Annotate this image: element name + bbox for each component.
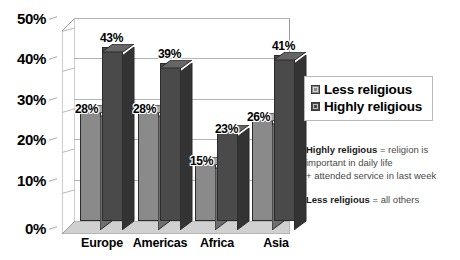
data-label-americas-highly: 39% — [158, 47, 181, 61]
data-label-europe-less: 28% — [75, 102, 98, 116]
y-tick-label-50: 50% — [17, 10, 46, 27]
bar-asia-less-religious[interactable] — [252, 116, 273, 221]
bar-face — [217, 128, 238, 221]
note-definition: = religion is — [377, 144, 428, 155]
data-label-asia-less: 26% — [247, 110, 270, 124]
bar-africa-less-religious[interactable] — [195, 160, 216, 221]
x-tick-label-africa: Africa — [200, 236, 234, 250]
y-tick-label-30: 30% — [17, 91, 46, 108]
x-tick-label-americas: Americas — [133, 236, 188, 250]
data-label-africa-less: 15% — [190, 154, 213, 168]
chart-legend: Less religious Highly religious — [304, 76, 433, 121]
bar-asia-highly-religious[interactable] — [274, 55, 295, 221]
bar-face — [252, 116, 273, 221]
bar-americas-highly-religious[interactable] — [160, 63, 181, 221]
bars-layer: 28% 43% 28% 39% 15% 23% 26% 41% — [62, 18, 290, 234]
data-label-africa-highly: 23% — [215, 122, 238, 136]
bar-group-africa — [191, 18, 243, 221]
note-highly-religious: Highly religious = religion is important… — [306, 143, 458, 182]
note-line: important in daily life — [306, 156, 458, 169]
bar-face — [195, 160, 216, 221]
chart-container: 50% 40% 30% 20% 10% 0% — [0, 0, 460, 260]
legend-swatch-icon — [311, 85, 320, 94]
y-tick-mark-0 — [49, 226, 57, 229]
y-tick-label-20: 20% — [17, 131, 46, 148]
data-label-americas-less: 28% — [133, 102, 156, 116]
plot-area: 28% 43% 28% 39% 15% 23% 26% 41% — [62, 18, 290, 234]
y-tick-mark-30 — [49, 97, 57, 100]
y-tick-mark-40 — [49, 56, 57, 59]
bar-americas-less-religious[interactable] — [138, 108, 159, 221]
bar-europe-less-religious[interactable] — [80, 108, 101, 221]
note-line: + attended service in last week — [306, 169, 458, 182]
chart-notes: Highly religious = religion is important… — [306, 143, 458, 206]
bar-group-europe — [76, 18, 128, 221]
note-definition: = all others — [370, 194, 419, 205]
bar-side — [122, 47, 134, 221]
data-label-europe-highly: 43% — [100, 31, 123, 45]
data-label-asia-highly: 41% — [272, 39, 295, 53]
note-term: Highly religious — [306, 144, 377, 155]
legend-label: Less religious — [324, 82, 412, 97]
bar-face — [274, 55, 295, 221]
y-tick-label-40: 40% — [17, 50, 46, 67]
x-axis: Europe Americas Africa Asia — [62, 236, 290, 258]
legend-item-less-religious[interactable]: Less religious — [311, 81, 422, 98]
note-less-religious: Less religious = all others — [306, 193, 458, 206]
y-tick-mark-10 — [49, 178, 57, 181]
legend-swatch-icon — [311, 102, 320, 111]
x-tick-label-europe: Europe — [81, 236, 123, 250]
bar-face — [138, 108, 159, 221]
bar-europe-highly-religious[interactable] — [102, 47, 123, 221]
bar-face — [102, 47, 123, 221]
y-axis: 50% 40% 30% 20% 10% 0% — [0, 0, 60, 260]
y-tick-mark-50 — [49, 16, 57, 19]
bar-face — [160, 63, 181, 221]
x-tick-label-asia: Asia — [263, 236, 289, 250]
legend-label: Highly religious — [324, 99, 422, 114]
legend-item-highly-religious[interactable]: Highly religious — [311, 98, 422, 115]
y-tick-mark-20 — [49, 137, 57, 140]
bar-africa-highly-religious[interactable] — [217, 128, 238, 221]
y-tick-label-10: 10% — [17, 172, 46, 189]
y-tick-label-0: 0% — [25, 220, 46, 237]
note-term: Less religious — [306, 194, 370, 205]
bar-face — [80, 108, 101, 221]
